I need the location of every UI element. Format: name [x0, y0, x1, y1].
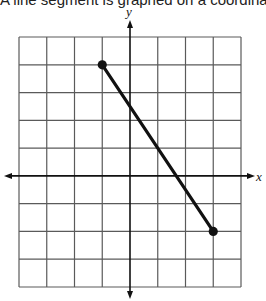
endpoint-dot [98, 60, 107, 69]
y-axis-label: y [124, 4, 132, 19]
coordinate-grid: x y [0, 0, 266, 301]
endpoint-dot [209, 227, 218, 236]
y-axis-down-arrow-icon [127, 291, 133, 299]
coordinate-plane-figure: A line segment is graphed on a coordinat… [0, 0, 266, 301]
x-axis-label: x [255, 169, 262, 184]
y-axis-up-arrow-icon [127, 20, 133, 28]
x-axis-right-arrow-icon [247, 173, 255, 179]
x-axis-left-arrow-icon [4, 173, 12, 179]
axes [4, 20, 255, 299]
